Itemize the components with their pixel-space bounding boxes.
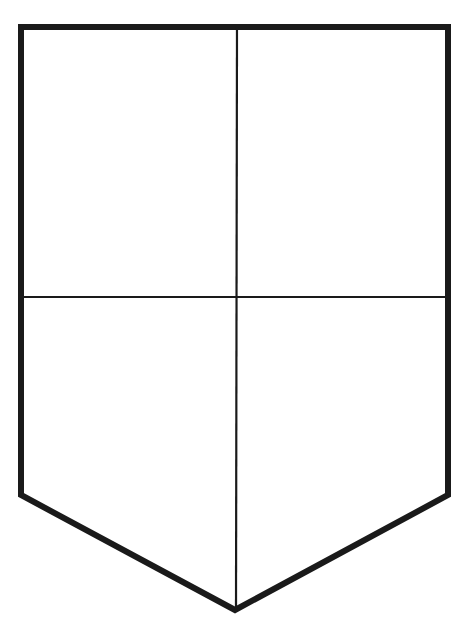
vertical-divider	[236, 27, 237, 610]
shield-diagram	[0, 0, 466, 627]
shield-outline	[21, 27, 448, 610]
